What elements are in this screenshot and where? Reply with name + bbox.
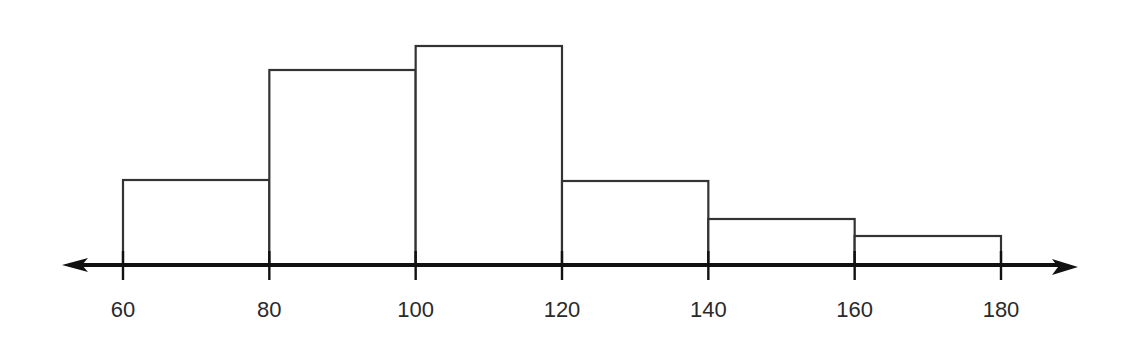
histogram-bar-100-120 <box>416 46 562 265</box>
histogram-chart: 6080100120140160180 <box>0 0 1141 352</box>
histogram-bar-160-180 <box>855 236 1001 265</box>
histogram-bar-140-160 <box>708 219 854 265</box>
histogram-bar-80-100 <box>269 70 415 265</box>
x-tick-label-120: 120 <box>544 297 581 322</box>
x-tick-label-100: 100 <box>397 297 434 322</box>
x-tick-label-140: 140 <box>690 297 727 322</box>
histogram-bar-120-140 <box>562 181 708 265</box>
x-tick-label-160: 160 <box>836 297 873 322</box>
x-axis-tick-labels: 6080100120140160180 <box>111 297 1020 322</box>
x-tick-label-180: 180 <box>983 297 1020 322</box>
histogram-bars <box>123 46 1001 265</box>
histogram-bar-60-80 <box>123 180 269 265</box>
x-tick-label-60: 60 <box>111 297 135 322</box>
x-tick-label-80: 80 <box>257 297 281 322</box>
